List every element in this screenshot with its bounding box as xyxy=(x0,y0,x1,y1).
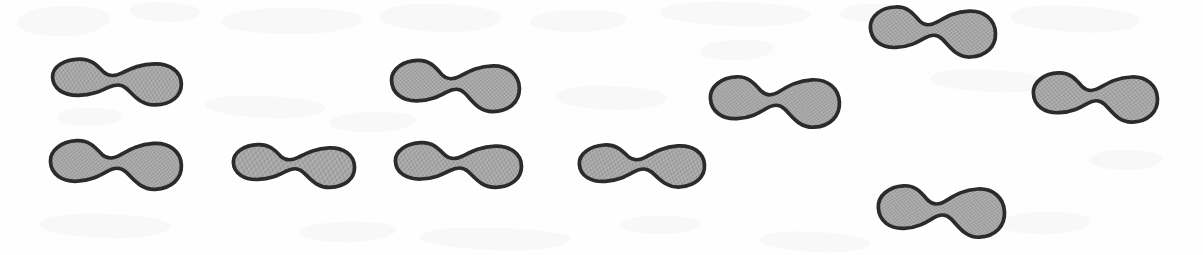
figure-canvas xyxy=(0,0,1203,255)
peanut-blob-shape xyxy=(230,139,358,193)
paper-ghost-mark xyxy=(556,85,666,111)
paper-ghost-mark xyxy=(380,3,500,33)
paper-ghost-mark xyxy=(1090,149,1162,170)
paper-ghost-mark xyxy=(760,230,871,254)
peanut-blob-outline xyxy=(395,139,522,191)
peanut-blob-shape xyxy=(389,56,523,116)
peanut-blob-outline xyxy=(877,181,1005,243)
peanut-blob-shape xyxy=(867,1,999,64)
peanut-blob-outline xyxy=(870,4,997,61)
paper-ghost-mark xyxy=(1000,210,1091,235)
peanut-blob-outline xyxy=(49,135,182,194)
peanut-blob-outline xyxy=(233,141,355,191)
paper-ghost-mark xyxy=(222,7,362,35)
paper-ghost-mark xyxy=(17,4,110,39)
peanut-blob-outline xyxy=(709,71,840,132)
paper-ghost-mark xyxy=(530,8,627,33)
peanut-blob-shape xyxy=(575,136,708,197)
paper-ghost-mark xyxy=(58,107,122,126)
peanut-blob-outline xyxy=(391,59,520,114)
peanut-blob-outline xyxy=(1033,70,1159,126)
peanut-blob-shape xyxy=(874,178,1008,246)
paper-ghost-mark xyxy=(300,220,397,243)
peanut-blob-shape xyxy=(392,137,525,194)
peanut-blob-shape xyxy=(1030,67,1161,128)
peanut-blob-shape xyxy=(50,55,185,109)
peanut-blob-shape xyxy=(707,69,844,136)
paper-ghost-mark xyxy=(420,227,570,252)
paper-ghost-mark xyxy=(40,213,170,239)
peanut-blob-outline xyxy=(52,57,181,106)
paper-ghost-mark xyxy=(700,38,775,62)
paper-ghost-mark xyxy=(205,94,326,120)
paper-ghost-mark xyxy=(620,215,700,234)
paper-ghost-mark xyxy=(1010,4,1141,35)
peanut-blob-outline xyxy=(578,138,706,194)
peanut-blob-shape xyxy=(47,132,186,197)
paper-ghost-mark xyxy=(660,1,810,28)
paper-ghost-mark xyxy=(130,1,201,23)
